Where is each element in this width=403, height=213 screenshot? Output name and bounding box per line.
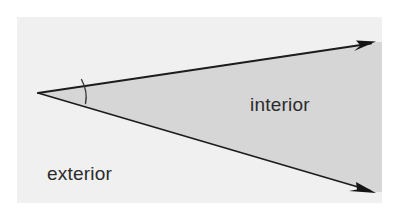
angle-diagram-svg: interior exterior [0, 0, 403, 213]
interior-label: interior [250, 94, 310, 115]
exterior-label: exterior [47, 163, 112, 184]
figure-root: interior exterior [0, 0, 403, 213]
